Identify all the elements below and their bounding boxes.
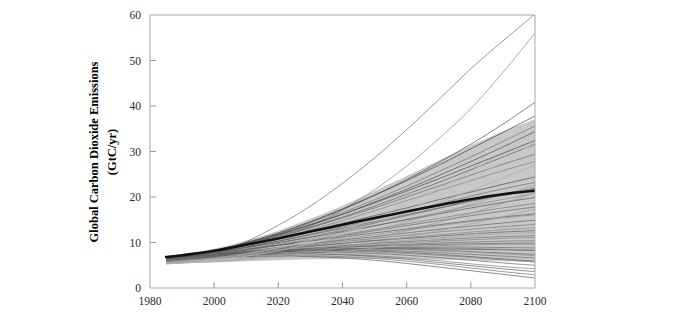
x-tick-label: 2020 (267, 295, 290, 307)
x-tick-label: 2000 (203, 295, 226, 307)
y-tick-label: 0 (135, 282, 141, 294)
chart-container: 0102030405060 19802000202020402060208021… (0, 0, 676, 321)
x-tick-label: 1980 (139, 295, 162, 307)
clip-right (535, 0, 676, 321)
clip-top (150, 0, 535, 15)
y-tick-label: 30 (130, 146, 142, 158)
y-tick-label: 60 (130, 9, 142, 21)
emissions-scenarios-chart: 0102030405060 19802000202020402060208021… (0, 0, 676, 321)
figure-page: 0102030405060 19802000202020402060208021… (0, 0, 676, 321)
x-tick-label: 2040 (331, 295, 354, 307)
y-axis-title-line2: (GtC/yr) (105, 129, 119, 176)
x-tick-label: 2060 (395, 295, 418, 307)
y-axis-title-line1: Global Carbon Dioxide Emissions (87, 61, 101, 242)
y-tick-label: 20 (130, 191, 142, 203)
clip-left (0, 0, 150, 321)
y-tick-label: 40 (130, 100, 142, 112)
x-tick-label: 2100 (524, 295, 547, 307)
y-tick-label: 10 (130, 237, 142, 249)
x-tick-label: 2080 (459, 295, 482, 307)
y-tick-label: 50 (130, 55, 142, 67)
